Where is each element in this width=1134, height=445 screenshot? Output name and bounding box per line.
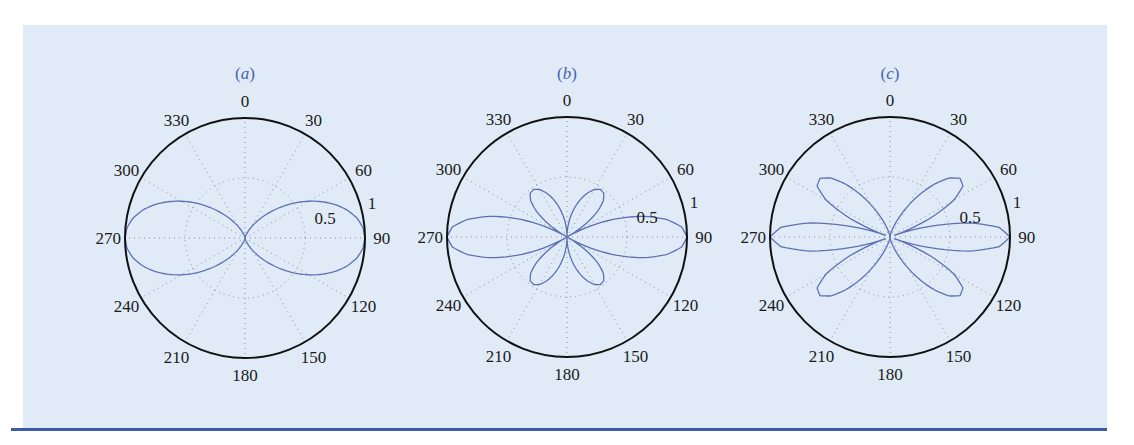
angle-tick-label: 240: [759, 296, 785, 315]
radial-tick-label: 0.5: [959, 208, 980, 227]
radial-tick-label: 0.5: [636, 208, 657, 227]
angle-tick-label: 120: [673, 296, 699, 315]
grid-spoke: [567, 133, 627, 237]
radial-tick-label: 1: [1013, 193, 1022, 212]
angle-tick-label: 300: [436, 160, 462, 179]
grid-spoke: [890, 237, 994, 297]
angle-tick-label: 210: [164, 348, 190, 367]
angle-tick-label: 30: [950, 110, 967, 129]
angle-tick-label: 210: [809, 347, 835, 366]
polar-plot-a: 03060901201501802102402703003300.51(a): [95, 64, 390, 385]
angle-tick-label: 150: [623, 347, 649, 366]
angle-tick-label: 240: [114, 297, 140, 316]
radial-tick-label: 0.5: [314, 209, 335, 228]
angle-tick-label: 300: [114, 161, 140, 180]
angle-tick-label: 330: [486, 110, 512, 129]
angle-tick-label: 270: [740, 228, 766, 247]
angle-tick-label: 120: [996, 296, 1022, 315]
grid-spoke: [890, 237, 950, 341]
grid-spoke: [245, 238, 305, 342]
angle-tick-label: 90: [1018, 228, 1035, 247]
angle-tick-label: 300: [759, 160, 785, 179]
panel-title: (c): [881, 64, 900, 83]
angle-tick-label: 150: [301, 348, 327, 367]
angle-tick-label: 270: [95, 229, 121, 248]
angle-tick-label: 180: [554, 365, 580, 384]
panel-title: (b): [557, 64, 577, 83]
grid-spoke: [567, 237, 627, 341]
polar-plot-c: 03060901201501802102402703003300.51(c): [740, 64, 1035, 384]
grid-spoke: [141, 238, 245, 298]
grid-spoke: [890, 177, 994, 237]
angle-tick-label: 90: [373, 229, 390, 248]
grid-spoke: [245, 134, 305, 238]
angle-tick-label: 60: [1000, 160, 1017, 179]
grid-spoke: [245, 238, 349, 298]
grid-spoke: [463, 237, 567, 297]
pattern-curve: [770, 178, 1010, 296]
radial-tick-label: 1: [368, 194, 377, 213]
polar-plots: 03060901201501802102402703003300.51(a) 0…: [0, 0, 1134, 445]
angle-tick-label: 330: [164, 111, 190, 130]
grid-spoke: [890, 133, 950, 237]
angle-tick-label: 150: [946, 347, 972, 366]
angle-tick-label: 0: [563, 91, 572, 110]
panel-title: (a): [235, 64, 255, 83]
angle-tick-label: 210: [486, 347, 512, 366]
angle-tick-label: 180: [232, 366, 258, 385]
grid-spoke: [245, 178, 349, 238]
angle-tick-label: 30: [305, 111, 322, 130]
angle-tick-label: 60: [677, 160, 694, 179]
angle-tick-label: 180: [877, 365, 903, 384]
angle-tick-label: 0: [886, 91, 895, 110]
angle-tick-label: 270: [417, 228, 443, 247]
angle-tick-label: 90: [695, 228, 712, 247]
pattern-curve: [447, 189, 687, 284]
angle-tick-label: 330: [809, 110, 835, 129]
grid-spoke: [141, 178, 245, 238]
angle-tick-label: 240: [436, 296, 462, 315]
grid-spoke: [786, 177, 890, 237]
radial-tick-label: 1: [690, 193, 699, 212]
grid-spoke: [463, 177, 567, 237]
polar-plot-b: 03060901201501802102402703003300.51(b): [417, 64, 712, 384]
grid-spoke: [567, 177, 671, 237]
grid-spoke: [567, 237, 671, 297]
angle-tick-label: 30: [627, 110, 644, 129]
angle-tick-label: 60: [355, 161, 372, 180]
angle-tick-label: 120: [351, 297, 377, 316]
angle-tick-label: 0: [241, 92, 250, 111]
grid-spoke: [786, 237, 890, 297]
